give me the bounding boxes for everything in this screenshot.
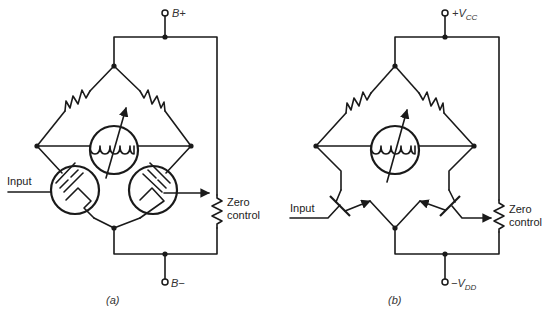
zero-control-potentiometer-b[interactable]: Zero control bbox=[494, 200, 542, 232]
right-triode-icon bbox=[114, 146, 209, 228]
bridge-circuit-diagrams: B+ bbox=[0, 0, 545, 314]
zero-label-b: Zero bbox=[509, 203, 532, 215]
left-triode-icon: Input bbox=[7, 146, 114, 228]
vdd-terminal: −VDD bbox=[442, 254, 477, 292]
svg-text:+VCC: +VCC bbox=[452, 7, 478, 22]
meter-icon bbox=[90, 108, 138, 178]
input-label-a: Input bbox=[7, 175, 31, 187]
left-transistor-icon: Input bbox=[290, 146, 395, 228]
left-resistor bbox=[37, 66, 114, 146]
meter-icon-b bbox=[371, 110, 419, 182]
caption-a: (a) bbox=[106, 294, 120, 306]
top-rail-wire-b bbox=[395, 37, 499, 200]
zero-label-a: Zero bbox=[227, 196, 250, 208]
control-label-b: control bbox=[509, 216, 542, 228]
vcc-terminal: +VCC bbox=[442, 7, 478, 37]
vdd-subscript: DD bbox=[465, 283, 477, 292]
svg-text:−VDD: −VDD bbox=[451, 277, 477, 292]
left-resistor-b bbox=[316, 66, 395, 146]
b-plus-terminal: B+ bbox=[162, 7, 186, 37]
b-minus-label: B− bbox=[171, 277, 185, 289]
zero-control-potentiometer[interactable]: Zero control bbox=[212, 195, 260, 228]
right-resistor bbox=[114, 66, 191, 146]
control-label-a: control bbox=[227, 209, 260, 221]
b-minus-terminal: B− bbox=[162, 254, 185, 289]
right-transistor-icon bbox=[395, 146, 491, 228]
panel-a-vacuum-tube-bridge: B+ bbox=[7, 7, 260, 306]
caption-b: (b) bbox=[388, 294, 402, 306]
top-rail-wire bbox=[114, 37, 217, 195]
right-resistor-b bbox=[395, 66, 474, 146]
vcc-subscript: CC bbox=[466, 13, 478, 22]
input-label-b: Input bbox=[290, 202, 314, 214]
panel-b-transistor-bridge: +VCC bbox=[290, 7, 542, 306]
b-plus-label: B+ bbox=[172, 7, 186, 19]
